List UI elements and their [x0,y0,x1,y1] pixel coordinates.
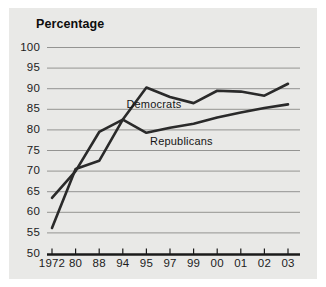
series-line-republicans [52,104,288,228]
gridlines [47,48,300,254]
chart-figure: Percentage 10095908580757065605550 19728… [0,0,326,287]
x-axis-ticks [52,249,288,255]
y-tick-label: 80 [14,124,40,136]
y-tick-label: 70 [14,165,40,177]
series-label-democrats: Democrats [126,98,181,110]
x-tick-label: 03 [268,258,308,270]
y-tick-label: 100 [14,42,40,54]
y-tick-label: 55 [14,227,40,239]
y-tick-label: 75 [14,145,40,157]
y-tick-label: 65 [14,186,40,198]
y-tick-label: 60 [14,206,40,218]
y-tick-label: 85 [14,103,40,115]
y-tick-label: 95 [14,62,40,74]
y-tick-label: 90 [14,83,40,95]
series-label-republicans: Republicans [150,135,213,147]
